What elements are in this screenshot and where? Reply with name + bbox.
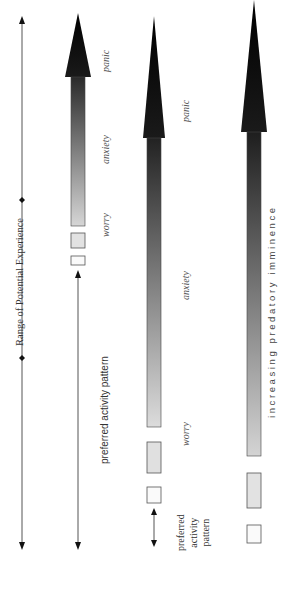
column-1-box-preferred <box>71 256 85 265</box>
column-2-preferred-range <box>151 508 157 547</box>
column-1-label-anxiety: anxiety <box>101 135 111 164</box>
column-2-box-preferred <box>147 487 161 503</box>
column-1-label-panic: panic <box>101 50 111 72</box>
column-2-label-worry: worry <box>181 422 191 446</box>
arrowhead-down-icon <box>19 542 25 550</box>
column-2-label-panic: panic <box>181 100 191 122</box>
column-1-arrow <box>65 13 91 226</box>
column-1-preferred-label: preferred activity pattern <box>100 356 110 464</box>
column-2-preferred-label: preferred activity pattern <box>175 514 213 551</box>
diamond-marker-icon <box>19 197 25 203</box>
range-axis-label: Range of Potential Experience <box>15 218 26 346</box>
column-3-box-preferred <box>247 525 261 543</box>
column-1-box-worry-low <box>71 233 85 248</box>
column-3-box-low <box>247 473 261 508</box>
column-2-label-anxiety: anxiety <box>181 271 191 300</box>
arrowhead-up-icon <box>19 16 25 24</box>
column-1-preferred-range <box>75 270 81 550</box>
predatory-imminence-label: increasing predatory imminence <box>267 205 277 418</box>
column-3-arrow <box>241 0 267 456</box>
diagram-canvas <box>0 0 286 592</box>
column-2-box-worry-low <box>147 442 161 473</box>
diamond-marker-icon <box>19 355 25 361</box>
column-1-label-worry: worry <box>101 213 111 237</box>
column-2-arrow <box>143 16 165 427</box>
